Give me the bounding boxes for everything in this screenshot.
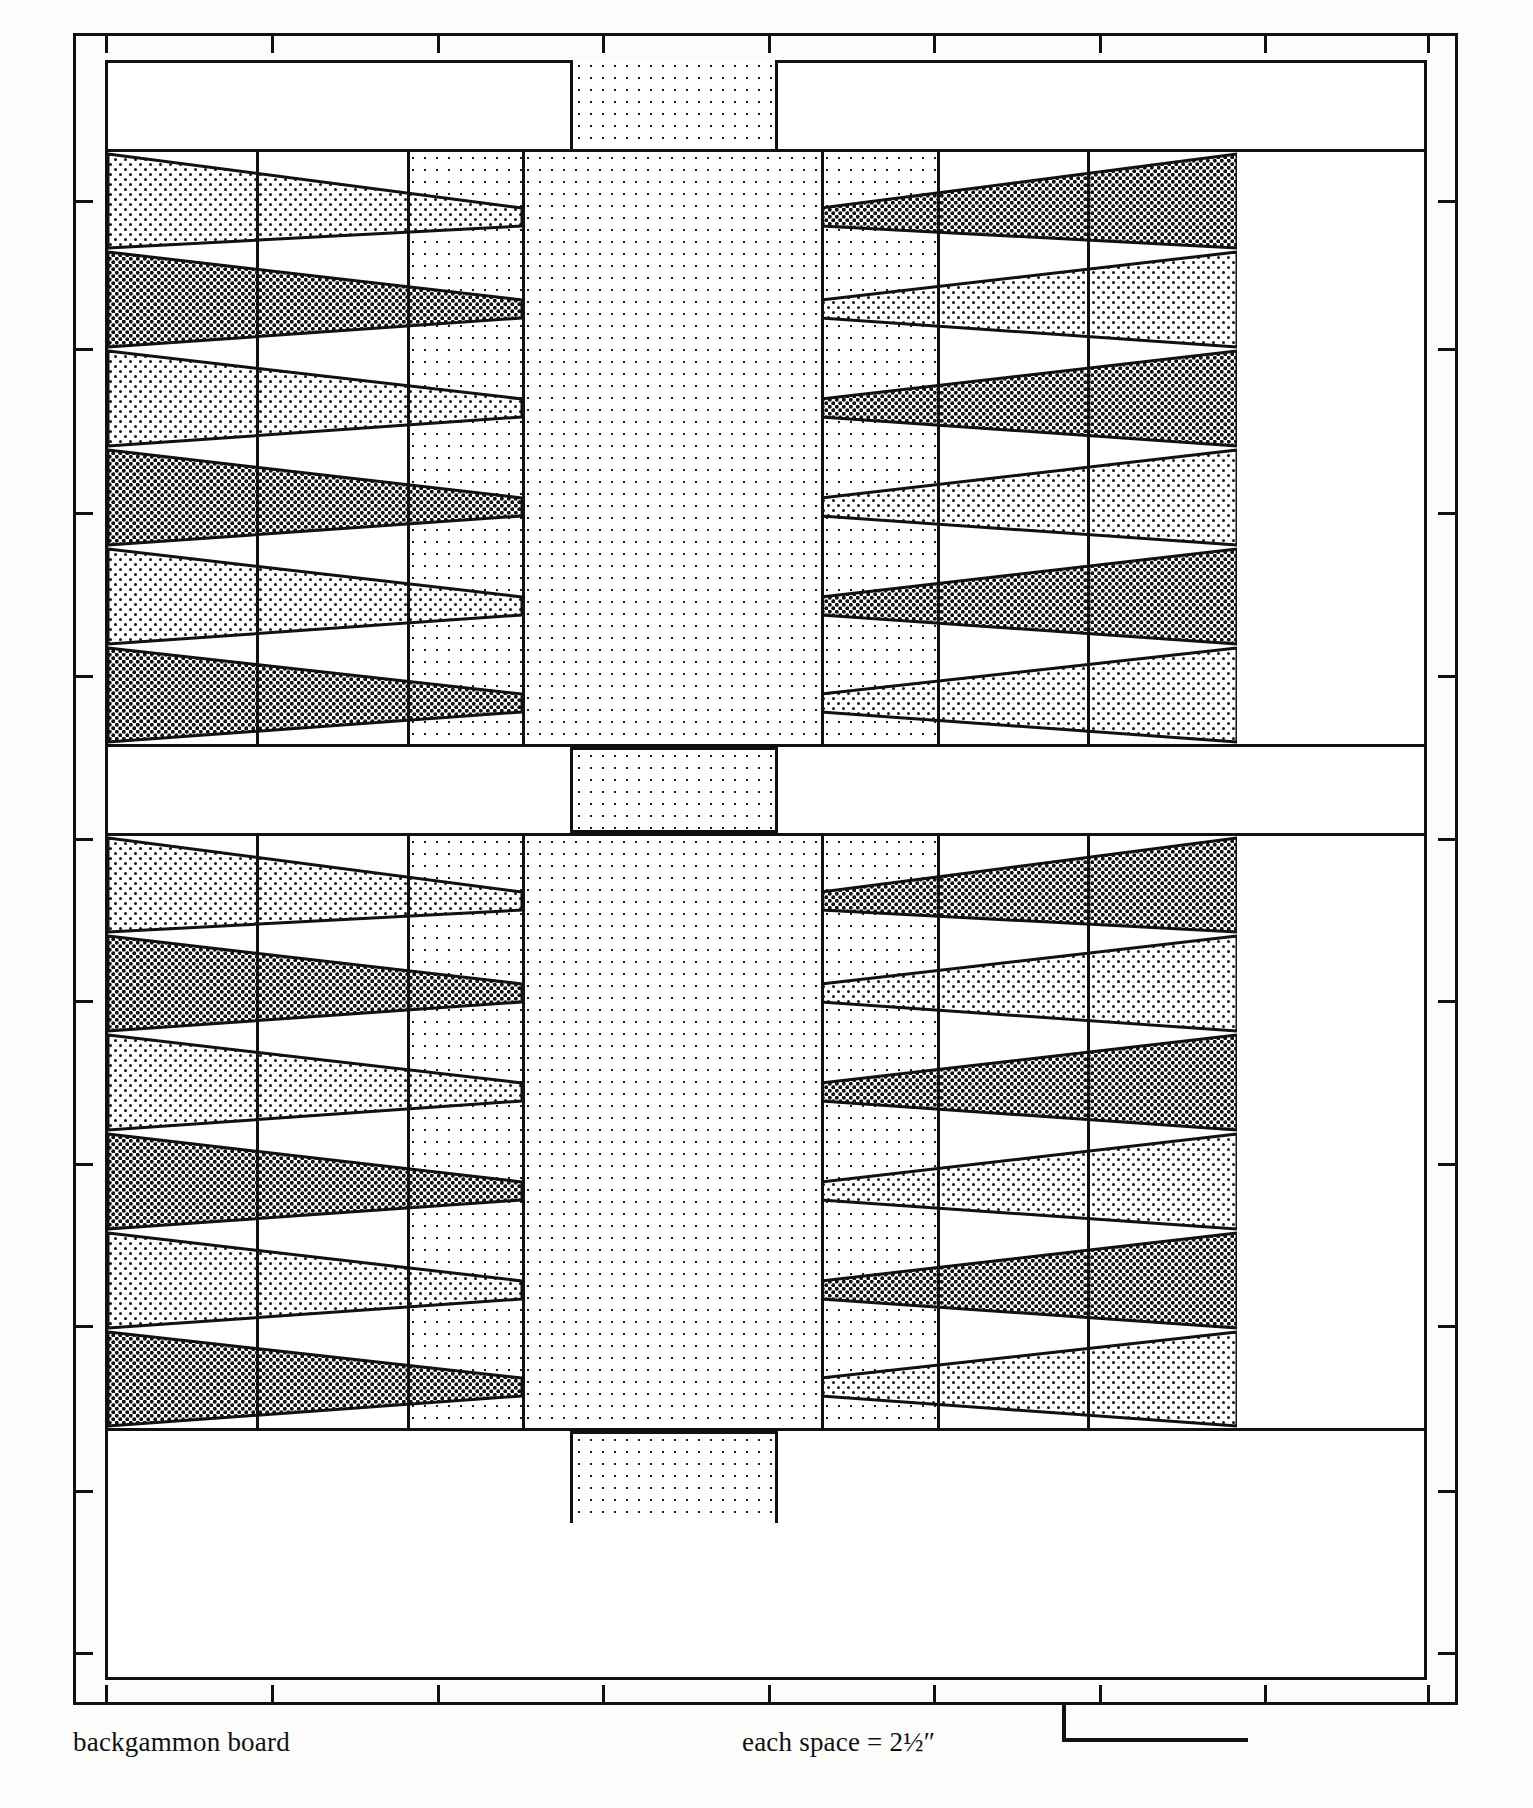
point-upper-left-5 <box>108 547 522 646</box>
lower-vline-5 <box>937 836 940 1428</box>
tick-top-2 <box>271 33 274 53</box>
point-upper-left-2 <box>108 250 522 349</box>
upper-vline-6 <box>1087 152 1090 744</box>
tick-left-8 <box>73 1325 93 1328</box>
lower-vline-4 <box>821 836 824 1428</box>
tick-bottom-5 <box>768 1685 771 1705</box>
bottom-bar-slot <box>570 1431 778 1523</box>
upper-vline-5 <box>937 152 940 744</box>
tick-bottom-6 <box>933 1685 936 1705</box>
middle-bar-slot <box>570 747 778 833</box>
tick-left-2 <box>73 348 93 351</box>
tick-bottom-3 <box>437 1685 440 1705</box>
upper-vline-1 <box>256 152 259 744</box>
point-lower-left-1 <box>108 836 522 934</box>
tick-left-6 <box>73 1000 93 1003</box>
point-lower-right-5 <box>821 1231 1237 1330</box>
tick-right-3 <box>1438 512 1458 515</box>
point-lower-right-4 <box>821 1132 1237 1231</box>
point-lower-left-4 <box>108 1132 522 1231</box>
point-upper-right-2 <box>821 250 1237 349</box>
point-lower-right-1 <box>821 836 1237 934</box>
point-lower-left-3 <box>108 1033 522 1132</box>
upper-vline-4 <box>821 152 824 744</box>
point-lower-right-2 <box>821 934 1237 1033</box>
point-upper-right-6 <box>821 646 1237 744</box>
lower-vline-2 <box>407 836 410 1428</box>
tick-bottom-4 <box>602 1685 605 1705</box>
point-upper-right-1 <box>821 152 1237 250</box>
point-lower-right-3 <box>821 1033 1237 1132</box>
tick-top-8 <box>1264 33 1267 53</box>
point-upper-left-1 <box>108 152 522 250</box>
tick-right-7 <box>1438 1163 1458 1166</box>
tick-left-9 <box>73 1490 93 1493</box>
figure-caption: backgammon board <box>73 1727 290 1758</box>
tick-top-7 <box>1099 33 1102 53</box>
tick-top-4 <box>602 33 605 53</box>
figure-page: backgammon board each space = 2½″ <box>0 0 1533 1808</box>
point-upper-left-4 <box>108 448 522 547</box>
tick-right-8 <box>1438 1325 1458 1328</box>
tick-bottom-2 <box>271 1685 274 1705</box>
point-upper-left-3 <box>108 349 522 448</box>
tick-top-9 <box>1427 33 1430 53</box>
lower-vline-1 <box>256 836 259 1428</box>
tick-right-6 <box>1438 1000 1458 1003</box>
tick-top-6 <box>933 33 936 53</box>
scale-bracket-icon <box>1060 1700 1250 1760</box>
lower-vline-3 <box>522 836 525 1428</box>
upper-vline-3 <box>522 152 525 744</box>
lower-half <box>108 836 1424 1428</box>
point-lower-left-6 <box>108 1330 522 1428</box>
tick-left-1 <box>73 200 93 203</box>
upper-center-bar <box>522 152 821 744</box>
lower-center-bar <box>522 836 821 1428</box>
point-upper-left-6 <box>108 646 522 744</box>
upper-half <box>108 152 1424 744</box>
point-upper-right-4 <box>821 448 1237 547</box>
point-lower-left-5 <box>108 1231 522 1330</box>
tick-left-4 <box>73 675 93 678</box>
tick-right-9 <box>1438 1490 1458 1493</box>
tick-left-10 <box>73 1652 93 1655</box>
tick-left-7 <box>73 1163 93 1166</box>
tick-right-5 <box>1438 838 1458 841</box>
tick-right-2 <box>1438 348 1458 351</box>
tick-bottom-9 <box>1427 1685 1430 1705</box>
tick-left-3 <box>73 512 93 515</box>
top-bar-slot <box>570 60 778 152</box>
tick-bottom-8 <box>1264 1685 1267 1705</box>
tick-bottom-1 <box>105 1685 108 1705</box>
tick-right-10 <box>1438 1652 1458 1655</box>
point-lower-left-2 <box>108 934 522 1033</box>
point-upper-right-3 <box>821 349 1237 448</box>
point-lower-right-6 <box>821 1330 1237 1428</box>
tick-right-4 <box>1438 675 1458 678</box>
lower-vline-6 <box>1087 836 1090 1428</box>
tick-top-1 <box>105 33 108 53</box>
tick-right-1 <box>1438 200 1458 203</box>
upper-vline-2 <box>407 152 410 744</box>
tick-left-5 <box>73 838 93 841</box>
point-upper-right-5 <box>821 547 1237 646</box>
tick-top-5 <box>768 33 771 53</box>
scale-caption: each space = 2½″ <box>742 1727 935 1758</box>
backgammon-board <box>105 60 1427 1680</box>
tick-top-3 <box>437 33 440 53</box>
